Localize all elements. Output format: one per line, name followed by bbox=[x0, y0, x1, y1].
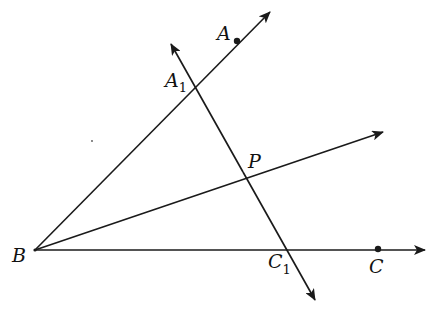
point-C-dot bbox=[375, 246, 381, 252]
line-A1C1 bbox=[171, 44, 243, 172]
label-A1-subscript: 1 bbox=[179, 80, 187, 95]
label-A: A bbox=[215, 22, 231, 44]
ray-BP bbox=[35, 132, 383, 250]
label-C1-main: C bbox=[268, 250, 283, 272]
label-A1: A1 bbox=[163, 69, 187, 95]
geometry-diagram: B A P C A1 C1 bbox=[0, 0, 431, 312]
stray-dot bbox=[91, 140, 93, 142]
line-A1C1-lower bbox=[243, 172, 315, 300]
label-C1-subscript: 1 bbox=[283, 262, 291, 277]
ray-BA bbox=[35, 12, 270, 250]
label-C: C bbox=[369, 255, 384, 277]
label-P: P bbox=[247, 150, 262, 172]
label-C1: C1 bbox=[268, 250, 291, 277]
label-B: B bbox=[11, 244, 26, 266]
point-B-dot bbox=[33, 248, 36, 251]
label-A1-main: A bbox=[163, 69, 179, 91]
diagram-svg: B A P C A1 C1 bbox=[0, 0, 431, 312]
point-A-dot bbox=[234, 38, 240, 44]
